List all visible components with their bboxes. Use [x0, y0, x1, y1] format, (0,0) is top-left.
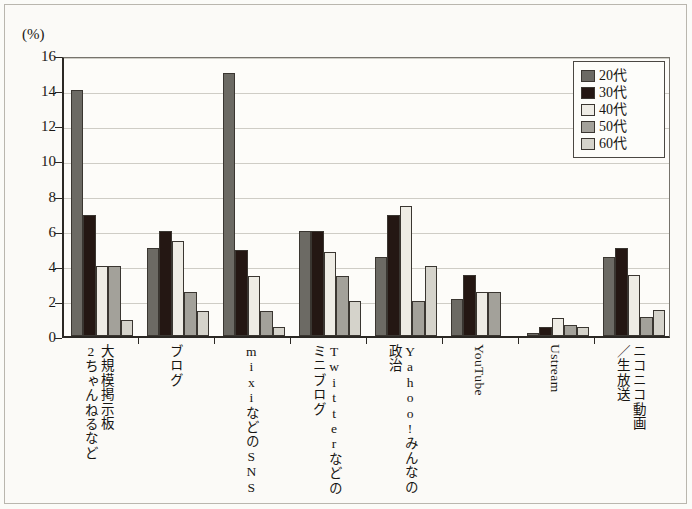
- y-axis-tick-label: 6: [26, 225, 56, 240]
- x-axis-label: Yahoo!みんなの政治: [387, 344, 417, 494]
- bar: [476, 292, 489, 336]
- bar: [121, 320, 134, 336]
- bar-group: [299, 58, 362, 336]
- x-axis-label: ニコニコ動画／生放送: [615, 344, 645, 430]
- x-axis-label-line: ／生放送: [615, 344, 629, 430]
- bar-group: [71, 58, 134, 336]
- bar: [159, 231, 172, 336]
- bar: [539, 327, 552, 336]
- x-axis-label-line: ブログ: [168, 344, 182, 387]
- bar: [400, 206, 413, 336]
- legend-label: 20代: [599, 69, 627, 83]
- bar: [172, 241, 185, 336]
- bar: [640, 317, 653, 336]
- bar: [184, 292, 197, 336]
- bar: [260, 311, 273, 336]
- x-axis-labels: 大規模掲示板2ちゃんねるなどブログmixiなどのSNSTwitterなどのミニブ…: [62, 344, 670, 494]
- x-axis-label-line: ニコニコ動画: [630, 344, 644, 430]
- bar: [71, 90, 84, 336]
- bar: [628, 275, 641, 336]
- y-axis-tick-mark: [55, 233, 62, 234]
- bar-group: [223, 58, 286, 336]
- bar: [463, 275, 476, 336]
- bar: [488, 292, 501, 336]
- y-axis-tick-mark: [55, 92, 62, 93]
- legend-label: 40代: [599, 103, 627, 117]
- legend-item: 20代: [581, 67, 658, 84]
- bar: [197, 311, 210, 336]
- bar: [552, 318, 565, 336]
- x-axis-label-line: Twitterなどの: [326, 344, 340, 495]
- x-axis-label: YouTube: [472, 344, 486, 396]
- y-axis-tick-label: 10: [26, 154, 56, 169]
- bar: [311, 231, 324, 336]
- y-axis-tick-label: 8: [26, 190, 56, 205]
- legend-swatch-icon: [581, 138, 595, 150]
- bar: [96, 266, 109, 336]
- bar-group: [375, 58, 438, 336]
- legend-item: 60代: [581, 135, 658, 152]
- bar: [527, 333, 540, 337]
- y-axis-tick-mark: [55, 127, 62, 128]
- legend-item: 50代: [581, 118, 658, 135]
- legend-swatch-icon: [581, 70, 595, 82]
- bar: [451, 299, 464, 336]
- bar: [299, 231, 312, 336]
- bar-group: [451, 58, 514, 336]
- y-axis-tick-mark: [55, 303, 62, 304]
- bar: [147, 248, 160, 336]
- x-axis-label-line: Ustream: [548, 344, 562, 393]
- bar: [603, 257, 616, 336]
- bar: [235, 250, 248, 336]
- x-axis-label: Twitterなどのミニブログ: [311, 344, 341, 495]
- x-axis-label: 大規模掲示板2ちゃんねるなど: [83, 344, 113, 460]
- y-axis-tick-mark: [55, 57, 62, 58]
- bar: [273, 327, 286, 336]
- legend-swatch-icon: [581, 121, 595, 133]
- x-axis-label-line: mixiなどのSNS: [244, 344, 258, 495]
- y-axis-tick-label: 16: [26, 49, 56, 64]
- bar: [349, 301, 362, 336]
- x-axis-label-line: 2ちゃんねるなど: [83, 344, 97, 460]
- bar-group: [147, 58, 210, 336]
- legend-label: 60代: [599, 137, 627, 151]
- x-axis-label-line: 政治: [387, 344, 401, 494]
- legend-item: 40代: [581, 101, 658, 118]
- y-axis-tick-label: 14: [26, 84, 56, 99]
- y-axis-tick-mark: [55, 338, 62, 339]
- y-axis-tick-mark: [55, 162, 62, 163]
- y-axis-tick-label: 4: [26, 260, 56, 275]
- bar: [653, 310, 666, 336]
- bar: [248, 276, 261, 336]
- bar: [425, 266, 438, 336]
- bar: [108, 266, 121, 336]
- chart-page: (%) 0246810121416 大規模掲示板2ちゃんねるなどブログmixiな…: [0, 0, 692, 509]
- bar: [387, 215, 400, 336]
- bar: [83, 215, 96, 336]
- y-axis-tick-mark: [55, 268, 62, 269]
- bar: [336, 276, 349, 336]
- bar: [223, 73, 236, 336]
- legend: 20代30代40代50代60代: [573, 61, 665, 158]
- x-axis-label: ブログ: [168, 344, 182, 387]
- bar: [577, 327, 590, 336]
- legend-item: 30代: [581, 84, 658, 101]
- legend-swatch-icon: [581, 87, 595, 99]
- bar: [564, 325, 577, 336]
- x-axis-label: Ustream: [548, 344, 562, 393]
- x-axis-label-line: ミニブログ: [311, 344, 325, 495]
- legend-swatch-icon: [581, 104, 595, 116]
- x-axis-label-line: YouTube: [472, 344, 486, 396]
- bar: [412, 301, 425, 336]
- x-axis-label-line: Yahoo!みんなの: [402, 344, 416, 494]
- bar: [615, 248, 628, 336]
- legend-label: 30代: [599, 86, 627, 100]
- y-axis-tick-label: 12: [26, 119, 56, 134]
- bar: [375, 257, 388, 336]
- y-axis-tick-label: 0: [26, 330, 56, 345]
- legend-label: 50代: [599, 120, 627, 134]
- x-axis-label: mixiなどのSNS: [244, 344, 258, 495]
- y-axis-tick-label: 2: [26, 295, 56, 310]
- bar: [324, 252, 337, 336]
- y-axis-tick-mark: [55, 198, 62, 199]
